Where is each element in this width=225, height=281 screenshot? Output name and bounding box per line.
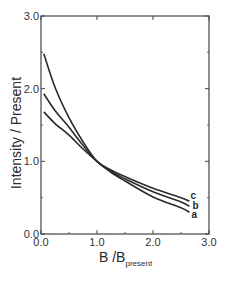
x-tick-label: 3.0: [201, 236, 216, 248]
y-tick-label: 1.0: [24, 155, 39, 167]
curve-c: [44, 54, 190, 202]
chart: 0.01.02.03.00.01.02.03.0 abc B /Bpresent…: [0, 0, 225, 281]
curve-label-b: b: [192, 200, 198, 211]
axis-ticks: 0.01.02.03.00.01.02.03.0: [24, 10, 217, 248]
y-tick-label: 2.0: [24, 83, 39, 95]
y-tick-label: 3.0: [24, 10, 39, 22]
x-tick-label: 1.0: [89, 236, 104, 248]
y-axis-title: Intensity / Present: [8, 77, 24, 189]
curves: [44, 54, 190, 212]
x-axis-title: B /Bpresent: [99, 249, 153, 268]
x-tick-label: 2.0: [145, 236, 160, 248]
curve-label-c: c: [190, 190, 196, 201]
curve-labels: abc: [190, 190, 198, 220]
y-tick-label: 0.0: [24, 228, 39, 240]
